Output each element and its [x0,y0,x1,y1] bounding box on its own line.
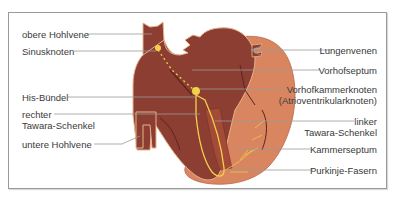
label-linker-line1: linker [304,116,377,127]
label-his-buendel: His-Bündel [22,92,68,103]
label-purkinje-fasern: Purkinje-Fasern [310,165,377,176]
label-linker-tawara-schenkel: linker Tawara-Schenkel [304,116,377,138]
av-node [192,87,200,95]
label-rechter-line2: Tawara-Schenkel [22,120,95,131]
label-untere-hohlvene: untere Hohlvene [22,139,92,150]
label-lungenvenen: Lungenvenen [319,45,377,56]
label-vorhofseptum: Vorhofseptum [318,65,377,76]
label-obere-hohlvene: obere Hohlvene [22,29,89,40]
label-rechter-line1: rechter [22,109,95,120]
heart-illustration [133,22,295,184]
label-linker-line2: Tawara-Schenkel [304,127,377,138]
label-vorhofkammerknoten-line2: (Atrioventrikularknoten) [279,95,377,106]
label-sinusknoten: Sinusknoten [22,46,74,57]
label-vorhofkammerknoten: Vorhofkammerknoten (Atrioventrikularknot… [279,84,377,106]
label-kammerseptum: Kammerseptum [310,144,377,155]
label-rechter-tawara-schenkel: rechter Tawara-Schenkel [22,109,95,131]
label-vorhofkammerknoten-line1: Vorhofkammerknoten [279,84,377,95]
